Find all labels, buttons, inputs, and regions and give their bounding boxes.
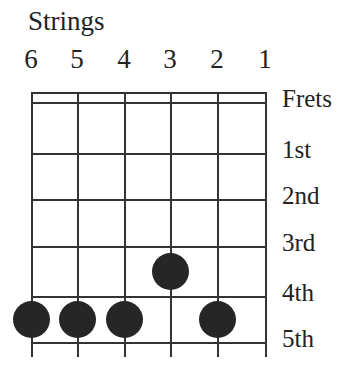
string-number: 2 (207, 44, 227, 75)
finger-position-dot (199, 301, 236, 338)
fret-label: 3rd (282, 229, 315, 257)
fret-label: 2nd (282, 182, 320, 210)
fret-line (31, 246, 266, 248)
fret-line (31, 92, 266, 94)
fret-label: 1st (282, 136, 311, 164)
fret-label: Frets (282, 85, 332, 113)
string-number: 6 (21, 44, 41, 75)
string-number: 4 (114, 44, 134, 75)
finger-position-dot (59, 301, 96, 338)
fret-label: 4th (282, 279, 314, 307)
fret-line (31, 153, 266, 155)
fret-label: 5th (282, 325, 314, 353)
finger-position-dot (152, 253, 189, 290)
finger-position-dot (106, 301, 143, 338)
string-number: 1 (255, 44, 275, 75)
string-number: 3 (160, 44, 180, 75)
diagram-title: Strings (28, 6, 105, 37)
fret-line (31, 199, 266, 201)
fret-line (31, 342, 266, 344)
string-line (170, 92, 172, 357)
fret-line (31, 296, 266, 298)
string-line (265, 92, 267, 357)
finger-position-dot (13, 301, 50, 338)
fret-line (31, 102, 266, 104)
string-number: 5 (67, 44, 87, 75)
